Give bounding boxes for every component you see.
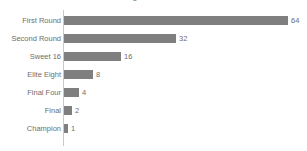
- bar-sweet-16[interactable]: [64, 52, 121, 61]
- bar-row: Champion 1: [0, 120, 307, 138]
- value-label: 4: [82, 87, 86, 98]
- bar-row: First Round 64: [0, 12, 307, 30]
- category-label: Final Four: [27, 87, 61, 98]
- bar-elite-eight[interactable]: [64, 70, 93, 79]
- category-label: Final: [45, 105, 61, 116]
- bar-row: Final 2: [0, 102, 307, 120]
- bar-row: Sweet 16 16: [0, 48, 307, 66]
- bar-champion[interactable]: [64, 124, 68, 133]
- category-label: First Round: [22, 15, 61, 26]
- bar-row: Final Four 4: [0, 84, 307, 102]
- bar-row: Second Round 32: [0, 30, 307, 48]
- value-label: 1: [71, 123, 75, 134]
- value-label: 32: [179, 33, 187, 44]
- bar-chart: Teams Remaining in a Basketball Tourname…: [0, 0, 307, 151]
- bar-final-four[interactable]: [64, 88, 79, 97]
- category-label: Second Round: [11, 33, 61, 44]
- bar-second-round[interactable]: [64, 34, 176, 43]
- value-label: 16: [124, 51, 132, 62]
- category-label: Champion: [27, 123, 61, 134]
- bar-first-round[interactable]: [64, 16, 288, 25]
- bar-row: Elite Eight 8: [0, 66, 307, 84]
- value-label: 2: [75, 105, 79, 116]
- value-label: 64: [291, 15, 299, 26]
- value-label: 8: [96, 69, 100, 80]
- plot-area: First Round 64 Second Round 32 Sweet 16 …: [0, 0, 307, 151]
- bar-final[interactable]: [64, 106, 72, 115]
- category-label: Sweet 16: [30, 51, 61, 62]
- category-label: Elite Eight: [27, 69, 61, 80]
